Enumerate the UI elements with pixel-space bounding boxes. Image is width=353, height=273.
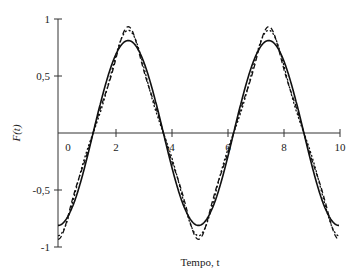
x-axis-label: Tempo, t <box>181 256 220 268</box>
y-tick-0-5: 0,5 <box>36 70 50 82</box>
y-axis-label: F(t) <box>10 124 23 142</box>
y-tick-neg-0-5: -0,5 <box>33 184 51 196</box>
x-tick-8: 8 <box>281 141 287 153</box>
x-tick-2: 2 <box>113 141 119 153</box>
y-axis: 1 0,5 -0,5 -1 <box>33 13 62 253</box>
y-tick-neg-1: -1 <box>41 241 50 253</box>
x-tick-0: 0 <box>65 141 71 153</box>
x-tick-10: 10 <box>335 141 347 153</box>
fourier-chart: 1 0,5 -0,5 -1 0 2 4 6 8 10 Tempo, t F(t) <box>0 0 353 273</box>
y-tick-1: 1 <box>45 13 51 25</box>
x-axis: 0 2 4 6 8 10 <box>58 129 346 153</box>
